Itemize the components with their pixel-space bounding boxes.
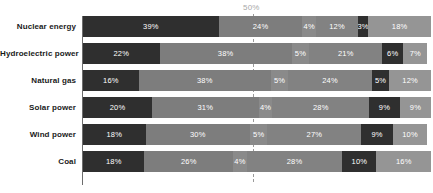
bar-segment: 38%	[160, 43, 292, 64]
bar-segment: 10%	[393, 124, 428, 145]
category-label-nuclear-energy: Nuclear energy	[0, 16, 76, 37]
bar-segment: 16%	[376, 151, 431, 172]
bar-segment: 5%	[292, 43, 309, 64]
bar-segment: 4%	[302, 16, 316, 37]
bar-segment: 12%	[389, 70, 431, 91]
reference-line-label: 50%	[243, 3, 260, 12]
bar-segment: 10%	[342, 151, 376, 172]
bar-segment: 22%	[83, 43, 160, 64]
bar-segment: 38%	[139, 70, 271, 91]
bar-segment: 7%	[403, 43, 427, 64]
stacked-bar: 18%30%5%27%9%10%	[83, 124, 431, 145]
bar-row: Coal18%26%4%28%10%16%	[0, 151, 433, 178]
bar-rows: Nuclear energy39%24%4%12%3%18%Hydroelect…	[0, 16, 433, 178]
bar-segment: 6%	[382, 43, 403, 64]
bar-segment: 18%	[83, 124, 146, 145]
stacked-bar: 18%26%4%28%10%16%	[83, 151, 431, 172]
stacked-bar: 16%38%5%24%5%12%	[83, 70, 431, 91]
bar-row: Nuclear energy39%24%4%12%3%18%	[0, 16, 433, 43]
bar-segment: 5%	[271, 70, 288, 91]
bar-segment: 9%	[361, 124, 392, 145]
bar-segment: 12%	[316, 16, 358, 37]
bar-row: Wind power18%30%5%27%9%10%	[0, 124, 433, 151]
bar-segment: 5%	[250, 124, 267, 145]
stacked-bar: 22%38%5%21%6%7%	[83, 43, 431, 64]
bar-segment: 20%	[83, 97, 152, 118]
bar-segment: 5%	[372, 70, 389, 91]
bar-row: Natural gas16%38%5%24%5%12%	[0, 70, 433, 97]
bar-segment: 4%	[259, 97, 273, 118]
category-label-coal: Coal	[0, 151, 76, 172]
stacked-bar: 20%31%4%28%9%9%	[83, 97, 431, 118]
bar-row: Solar power20%31%4%28%9%9%	[0, 97, 433, 124]
stacked-bar: 39%24%4%12%3%18%	[83, 16, 431, 37]
bar-row: Hydroelectric power22%38%5%21%6%7%	[0, 43, 433, 70]
bar-segment: 9%	[400, 97, 431, 118]
bar-segment: 18%	[83, 151, 144, 172]
bar-segment: 16%	[83, 70, 139, 91]
bar-segment: 4%	[233, 151, 247, 172]
bar-segment: 28%	[272, 97, 368, 118]
bar-segment: 9%	[369, 97, 400, 118]
bar-segment: 27%	[267, 124, 361, 145]
bar-segment: 3%	[358, 16, 368, 37]
category-label-natural-gas: Natural gas	[0, 70, 76, 91]
bar-segment: 28%	[247, 151, 343, 172]
bar-segment: 21%	[309, 43, 382, 64]
bar-segment: 18%	[368, 16, 431, 37]
bar-segment: 24%	[288, 70, 372, 91]
category-label-wind-power: Wind power	[0, 124, 76, 145]
bar-segment: 24%	[219, 16, 303, 37]
bar-segment: 39%	[83, 16, 219, 37]
category-label-hydroelectric-power: Hydroelectric power	[0, 43, 76, 64]
bar-segment: 31%	[152, 97, 259, 118]
bar-segment: 30%	[146, 124, 250, 145]
stacked-bar-chart: 50% Nuclear energy39%24%4%12%3%18%Hydroe…	[0, 0, 433, 193]
bar-segment: 26%	[144, 151, 233, 172]
category-label-solar-power: Solar power	[0, 97, 76, 118]
